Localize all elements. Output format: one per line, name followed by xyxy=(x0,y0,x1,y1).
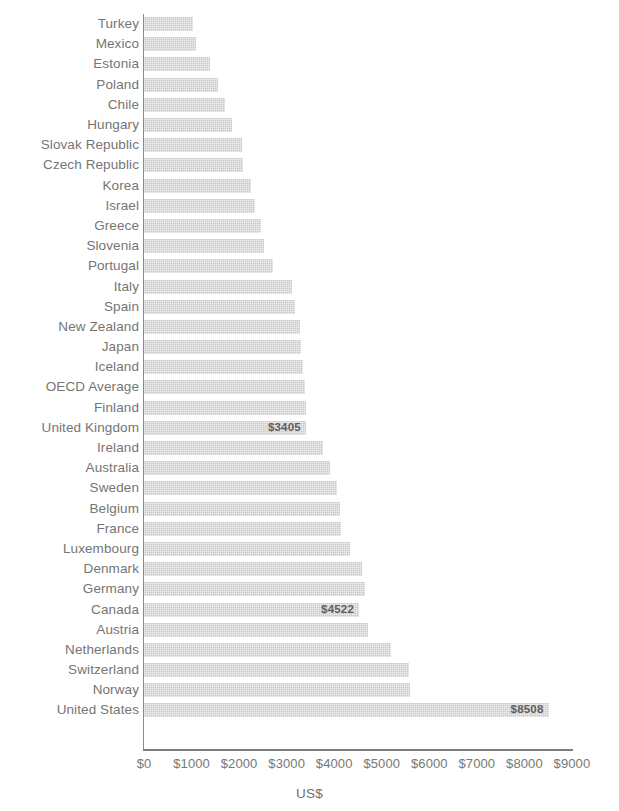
bar-row: Poland xyxy=(0,75,619,95)
bar xyxy=(144,360,303,374)
bar-track: $3405 xyxy=(144,421,306,435)
bar-row: Slovenia xyxy=(0,236,619,256)
category-label: Italy xyxy=(114,280,144,294)
category-label: Japan xyxy=(102,340,144,354)
x-tick-label: $4000 xyxy=(316,757,353,770)
bar-track xyxy=(144,320,300,334)
bar-value-label: $8508 xyxy=(511,705,544,717)
category-label: United States xyxy=(57,704,144,718)
bar: $3405 xyxy=(144,421,306,435)
bar-track xyxy=(144,340,301,354)
x-tick-label: $9000 xyxy=(554,757,591,770)
category-label: United Kingdom xyxy=(42,421,144,435)
bar-row: Japan xyxy=(0,337,619,357)
bar-row: Luxembourg xyxy=(0,539,619,559)
bar-track xyxy=(144,78,218,92)
bar-row: Czech Republic xyxy=(0,155,619,175)
category-label: Hungary xyxy=(87,118,144,132)
bar-row: Spain xyxy=(0,297,619,317)
bar-track xyxy=(144,360,303,374)
bar-track xyxy=(144,280,292,294)
y-axis-line xyxy=(143,14,144,750)
bar-track xyxy=(144,219,261,233)
category-label: Australia xyxy=(86,461,144,475)
bar xyxy=(144,461,330,475)
bar-row: Greece xyxy=(0,216,619,236)
bar xyxy=(144,683,410,697)
bar-row: Mexico xyxy=(0,34,619,54)
plot-area: TurkeyMexicoEstoniaPolandChileHungarySlo… xyxy=(0,14,619,750)
bar: $4522 xyxy=(144,603,359,617)
bar-row: Finland xyxy=(0,398,619,418)
bar-row: Switzerland xyxy=(0,660,619,680)
bar-row: Sweden xyxy=(0,478,619,498)
bar xyxy=(144,259,273,273)
bar-track xyxy=(144,663,409,677)
bar-row: Turkey xyxy=(0,14,619,34)
bar-row: Ireland xyxy=(0,438,619,458)
bar-track xyxy=(144,623,368,637)
x-axis-tick-labels: $0$1000$2000$3000$4000$5000$6000$7000$80… xyxy=(0,757,619,777)
category-label: Greece xyxy=(94,219,144,233)
bar xyxy=(144,441,323,455)
x-tick-label: $8000 xyxy=(506,757,543,770)
bar xyxy=(144,300,295,314)
bar-row: OECD Average xyxy=(0,377,619,397)
bar-row: Netherlands xyxy=(0,640,619,660)
bar-row: Slovak Republic xyxy=(0,135,619,155)
bar-track xyxy=(144,158,243,172)
bar-track: $4522 xyxy=(144,603,359,617)
category-label: Turkey xyxy=(98,17,144,31)
bar xyxy=(144,582,365,596)
category-label: OECD Average xyxy=(46,381,144,395)
bar-track xyxy=(144,138,242,152)
category-label: Estonia xyxy=(93,58,144,72)
bar-row: Hungary xyxy=(0,115,619,135)
category-label: Spain xyxy=(104,300,144,314)
bar-track xyxy=(144,562,362,576)
category-label: Portugal xyxy=(88,260,144,274)
category-label: Czech Republic xyxy=(43,159,144,173)
bar xyxy=(144,380,305,394)
bar-track: $8508 xyxy=(144,703,549,717)
bar-row: Korea xyxy=(0,176,619,196)
bar-row: Chile xyxy=(0,95,619,115)
bar-row: Denmark xyxy=(0,559,619,579)
bar-row: Estonia xyxy=(0,54,619,74)
bar-track xyxy=(144,502,340,516)
x-tick-label: $7000 xyxy=(459,757,496,770)
bar-track xyxy=(144,259,273,273)
bar-track xyxy=(144,683,410,697)
bar xyxy=(144,320,300,334)
bar xyxy=(144,663,409,677)
category-label: Norway xyxy=(93,684,144,698)
bar-row: Austria xyxy=(0,620,619,640)
bar xyxy=(144,623,368,637)
bar-track xyxy=(144,300,295,314)
bar-row: United Kingdom$3405 xyxy=(0,418,619,438)
bar-track xyxy=(144,542,350,556)
category-label: Korea xyxy=(102,179,144,193)
x-axis-line xyxy=(143,749,573,751)
bar xyxy=(144,522,341,536)
bar: $8508 xyxy=(144,703,549,717)
x-tick-label: $2000 xyxy=(221,757,258,770)
x-tick-label: $0 xyxy=(137,757,152,770)
bar xyxy=(144,542,350,556)
category-label: Luxembourg xyxy=(63,542,144,556)
category-label: Iceland xyxy=(95,361,144,375)
category-label: Belgium xyxy=(90,502,144,516)
bar-row: Italy xyxy=(0,276,619,296)
bar-track xyxy=(144,481,337,495)
category-label: Slovak Republic xyxy=(41,138,144,152)
x-tick-label: $5000 xyxy=(363,757,400,770)
bar-row: New Zealand xyxy=(0,317,619,337)
bar-track xyxy=(144,380,305,394)
bar-value-label: $4522 xyxy=(321,604,354,616)
bar xyxy=(144,239,264,253)
category-label: Germany xyxy=(83,583,144,597)
bar xyxy=(144,179,251,193)
bar xyxy=(144,17,193,31)
category-label: Canada xyxy=(91,603,144,617)
bar-track xyxy=(144,643,391,657)
